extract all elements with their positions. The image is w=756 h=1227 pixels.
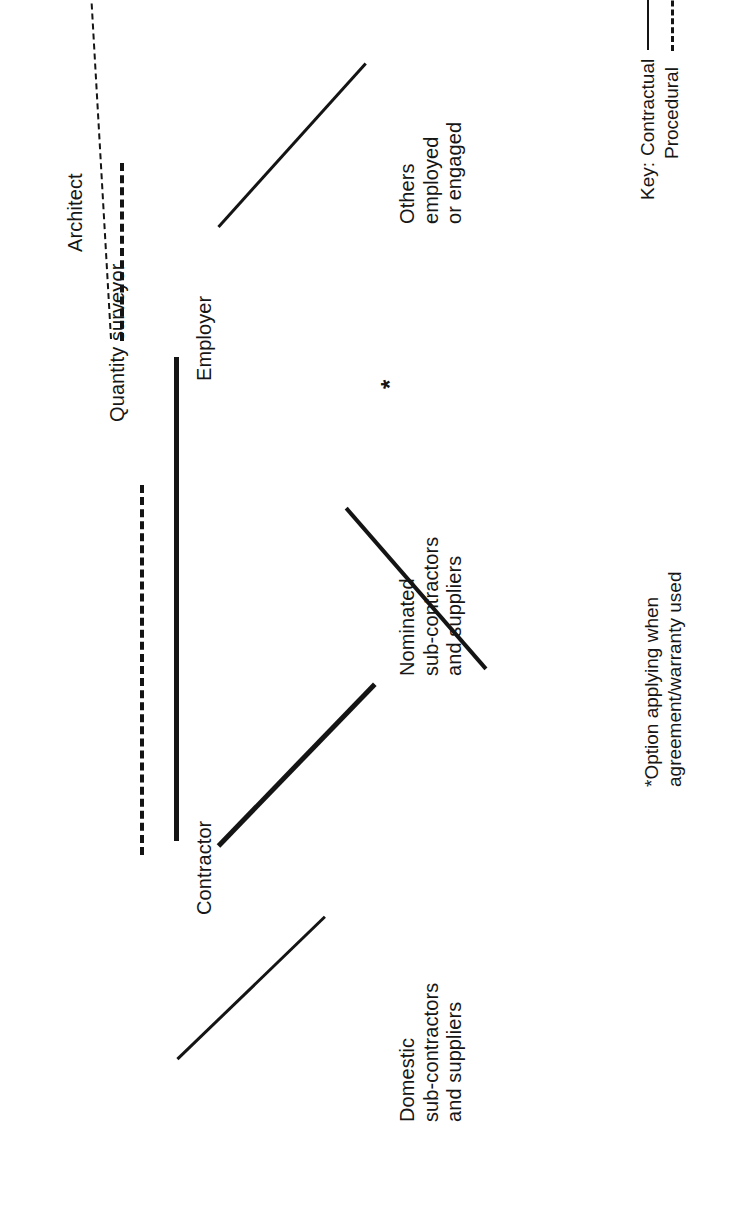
option-asterisk-marker: * bbox=[378, 380, 402, 389]
legend-swatch-contractual bbox=[647, 0, 649, 50]
legend-row-contractual: Key: Contractual bbox=[636, 0, 660, 200]
legend-swatch-procedural bbox=[671, 0, 674, 51]
edge-contractor-nominated bbox=[217, 682, 377, 847]
edge-employer-contractor bbox=[174, 357, 179, 841]
legend: Key: Contractual Procedural bbox=[636, 0, 684, 200]
node-label-contractor: Contractor bbox=[193, 775, 217, 915]
node-label-nominated-subcontractors: Nominated sub-contractors and suppliers bbox=[396, 446, 467, 676]
node-label-architect: Architect bbox=[64, 132, 88, 252]
node-label-domestic-subcontractors: Domestic sub-contractors and suppliers bbox=[396, 892, 467, 1122]
node-label-employer: Employer bbox=[193, 251, 217, 381]
legend-row-procedural: Procedural bbox=[660, 0, 684, 159]
legend-title: Key: bbox=[636, 162, 660, 200]
footnote-option-warranty: *Option applying when agreement/warranty… bbox=[641, 387, 687, 787]
node-label-others-employed: Others employed or engaged bbox=[396, 24, 467, 224]
legend-label-procedural: Procedural bbox=[660, 67, 684, 159]
relationship-diagram: * Quantity surveyor Architect Contractor… bbox=[0, 0, 756, 1227]
edge-quantity-surveyor-contractor bbox=[140, 485, 144, 855]
edge-contractor-domestic bbox=[176, 916, 325, 1060]
edge-employer-others bbox=[217, 63, 366, 228]
legend-label-contractual: Contractual bbox=[636, 59, 660, 156]
node-label-quantity-surveyor: Quantity surveyor bbox=[106, 222, 130, 422]
